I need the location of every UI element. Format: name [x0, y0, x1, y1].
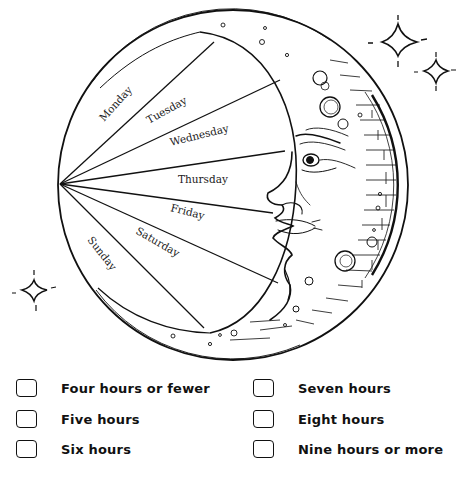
option-label: Six hours — [61, 442, 131, 457]
option-label: Four hours or fewer — [61, 381, 210, 396]
day-label-monday: Monday — [97, 83, 135, 123]
sparkle-star-icon — [414, 52, 456, 91]
option-six-hours[interactable]: Six hours — [16, 437, 131, 461]
option-label: Nine hours or more — [298, 442, 443, 457]
option-label: Seven hours — [298, 381, 391, 396]
option-eight-hours[interactable]: Eight hours — [253, 407, 384, 431]
day-dividers — [60, 42, 285, 328]
option-five-hours[interactable]: Five hours — [16, 407, 140, 431]
day-label-friday: Friday — [170, 201, 207, 221]
day-label-sunday: Sunday — [85, 234, 119, 273]
day-label-tuesday: Tuesday — [144, 94, 189, 126]
option-seven-hours[interactable]: Seven hours — [253, 376, 391, 400]
checkbox[interactable] — [253, 379, 274, 397]
checkbox[interactable] — [16, 410, 37, 428]
option-label: Five hours — [61, 412, 140, 427]
checkbox[interactable] — [16, 379, 37, 397]
moon-face — [267, 128, 355, 320]
sparkle-star-icon — [12, 270, 56, 311]
checkbox[interactable] — [16, 440, 37, 458]
checkbox[interactable] — [253, 440, 274, 458]
option-label: Eight hours — [298, 412, 384, 427]
checkbox[interactable] — [253, 410, 274, 428]
day-label-wednesday: Wednesday — [169, 122, 230, 148]
moon-outer-rim — [58, 9, 408, 360]
option-four-hours-or-fewer[interactable]: Four hours or fewer — [16, 376, 210, 400]
day-label-saturday: Saturday — [134, 224, 182, 259]
option-nine-hours-or-more[interactable]: Nine hours or more — [253, 437, 443, 461]
day-label-thursday: Thursday — [178, 173, 228, 185]
sleep-hours-options: Four hours or fewer Five hours Six hours… — [0, 370, 461, 479]
sparkle-star-icon — [368, 15, 427, 67]
